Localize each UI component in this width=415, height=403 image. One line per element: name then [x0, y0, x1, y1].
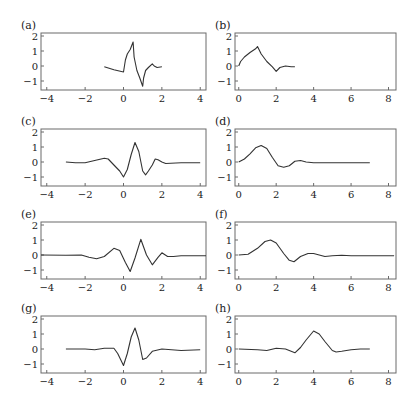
y-tick-label: 0: [226, 344, 232, 355]
y-tick-label: 1: [226, 46, 232, 57]
signal-trace-h: [239, 331, 370, 353]
signal-trace-d: [239, 146, 370, 168]
y-tick-label: 2: [32, 220, 38, 231]
y-tick-label: 0: [32, 250, 38, 261]
axes-frame-e: [41, 222, 206, 279]
x-tick-label: 2: [159, 376, 165, 387]
y-tick-label: −1: [217, 359, 232, 370]
y-tick-label: 0: [32, 61, 38, 72]
x-tick-label: 0: [236, 93, 242, 104]
x-tick-label: 4: [310, 93, 316, 104]
x-tick-label: 4: [197, 189, 203, 200]
y-tick-label: 0: [226, 61, 232, 72]
axes-frame-f: [235, 222, 396, 279]
axes-frame-a: [41, 33, 206, 90]
y-tick-label: 1: [32, 235, 38, 246]
y-tick-label: 0: [32, 344, 38, 355]
axes-frame-d: [235, 129, 396, 186]
x-tick-label: −4: [39, 376, 54, 387]
x-tick-label: 2: [273, 282, 279, 293]
y-tick-label: 1: [226, 142, 232, 153]
x-tick-label: 4: [197, 93, 203, 104]
x-tick-label: 2: [273, 93, 279, 104]
x-tick-label: 0: [120, 189, 126, 200]
y-tick-label: 2: [226, 127, 232, 138]
x-tick-label: 8: [385, 282, 391, 293]
y-tick-label: 0: [226, 250, 232, 261]
y-tick-label: −1: [217, 265, 232, 276]
signal-trace-a: [104, 42, 162, 86]
y-tick-label: −1: [217, 76, 232, 87]
x-tick-label: −4: [39, 282, 54, 293]
x-tick-label: 4: [197, 376, 203, 387]
y-tick-label: 1: [32, 46, 38, 57]
x-tick-label: −4: [39, 189, 54, 200]
x-tick-label: 6: [348, 189, 354, 200]
y-tick-label: 2: [32, 127, 38, 138]
x-tick-label: 2: [159, 282, 165, 293]
x-tick-label: 0: [120, 282, 126, 293]
x-tick-label: −4: [39, 93, 54, 104]
signal-trace-f: [239, 240, 394, 262]
y-tick-label: −1: [23, 172, 38, 183]
signal-trace-c: [66, 143, 200, 178]
x-tick-label: 8: [385, 189, 391, 200]
y-tick-label: 0: [226, 157, 232, 168]
y-tick-label: 2: [32, 31, 38, 42]
x-tick-label: 0: [236, 282, 242, 293]
x-tick-label: 0: [120, 93, 126, 104]
x-tick-label: −2: [78, 376, 93, 387]
x-tick-label: 2: [159, 93, 165, 104]
axes-frame-b: [235, 33, 396, 90]
y-tick-label: 2: [32, 314, 38, 325]
signal-trace-e: [41, 239, 206, 271]
x-tick-label: 0: [120, 376, 126, 387]
y-tick-label: 1: [226, 235, 232, 246]
x-tick-label: −2: [78, 189, 93, 200]
y-tick-label: 2: [226, 220, 232, 231]
y-tick-label: 2: [226, 314, 232, 325]
x-tick-label: 0: [236, 376, 242, 387]
y-tick-label: 1: [32, 329, 38, 340]
y-tick-label: 2: [226, 31, 232, 42]
x-tick-label: 4: [310, 189, 316, 200]
signal-trace-g: [66, 328, 200, 366]
x-tick-label: −2: [78, 282, 93, 293]
x-tick-label: 8: [385, 376, 391, 387]
x-tick-label: 0: [236, 189, 242, 200]
y-tick-label: 1: [32, 142, 38, 153]
y-tick-label: −1: [217, 172, 232, 183]
axes-frame-h: [235, 316, 396, 373]
y-tick-label: 1: [226, 329, 232, 340]
y-tick-label: 0: [32, 157, 38, 168]
x-tick-label: 4: [310, 282, 316, 293]
x-tick-label: 2: [159, 189, 165, 200]
x-tick-label: 2: [273, 376, 279, 387]
x-tick-label: 4: [197, 282, 203, 293]
x-tick-label: 6: [348, 282, 354, 293]
x-tick-label: 4: [310, 376, 316, 387]
y-tick-label: −1: [23, 359, 38, 370]
x-tick-label: 6: [348, 376, 354, 387]
x-tick-label: −2: [78, 93, 93, 104]
figure-grid: (a)210−1−4−2024(b)210−102468(c)210−1−4−2…: [0, 0, 415, 403]
y-tick-label: −1: [23, 76, 38, 87]
y-tick-label: −1: [23, 265, 38, 276]
x-tick-label: 2: [273, 189, 279, 200]
x-tick-label: 6: [348, 93, 354, 104]
x-tick-label: 8: [385, 93, 391, 104]
signal-trace-b: [239, 47, 295, 72]
